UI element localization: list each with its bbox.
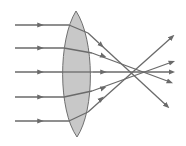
arrowhead-icon	[100, 44, 102, 46]
refracted-ray	[88, 37, 172, 112]
ray-4	[15, 62, 172, 97]
ray-1	[15, 25, 167, 106]
arrowhead-icon	[101, 55, 103, 56]
refracted-ray	[92, 62, 172, 91]
light-rays	[15, 25, 172, 121]
ray-2	[15, 48, 170, 82]
arrowhead-icon	[101, 88, 103, 89]
lens-ray-diagram	[0, 0, 186, 146]
ray-5	[15, 37, 172, 121]
